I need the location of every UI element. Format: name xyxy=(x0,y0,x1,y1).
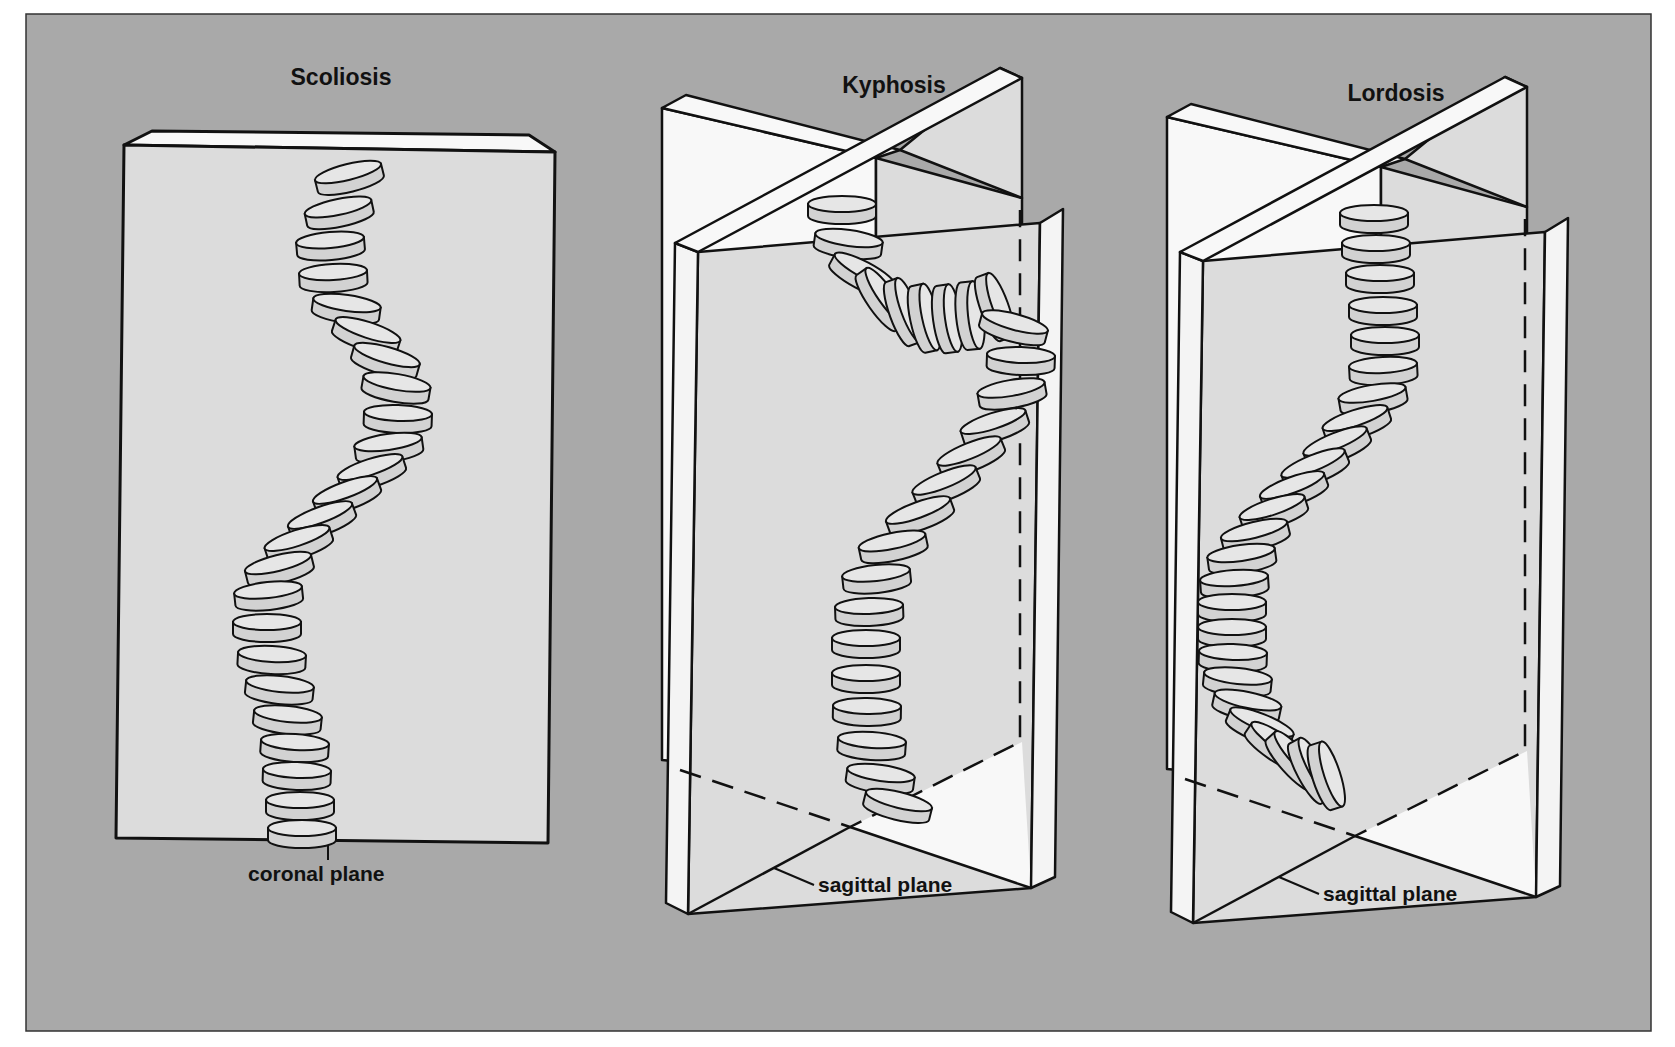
vertebra-disc xyxy=(299,262,368,294)
vertebra-disc xyxy=(1342,235,1410,263)
kyphosis-sagittal-plane-label: sagittal plane xyxy=(818,873,952,897)
vertebra-disc xyxy=(1340,205,1408,233)
vertebra-disc xyxy=(363,404,432,434)
vertebra-disc xyxy=(268,820,336,848)
coronal-plane-label: coronal plane xyxy=(248,862,385,886)
lordosis-sagittal-planes xyxy=(1167,77,1568,923)
vertebra-disc xyxy=(1349,297,1417,325)
vertebra-disc xyxy=(835,597,904,627)
vertebra-disc xyxy=(1349,355,1418,387)
vertebra-disc xyxy=(262,761,331,791)
kyphosis-title: Kyphosis xyxy=(842,72,946,99)
vertebra-disc xyxy=(808,196,876,224)
vertebra-disc xyxy=(832,630,900,658)
vertebra-disc xyxy=(833,697,901,726)
vertebra-disc xyxy=(986,346,1055,376)
vertebra-disc xyxy=(237,644,306,676)
vertebra-disc xyxy=(1198,594,1266,622)
vertebra-disc xyxy=(832,665,900,693)
vertebra-disc xyxy=(1351,327,1419,355)
spinal-deformity-diagram: Scoliosis Kyphosis Lordosis coronal plan… xyxy=(0,0,1675,1047)
lordosis-title: Lordosis xyxy=(1347,80,1444,107)
vertebra-disc xyxy=(266,792,334,820)
vertebra-disc xyxy=(1198,619,1266,647)
lordosis-sagittal-plane-label: sagittal plane xyxy=(1323,882,1457,906)
vertebra-disc xyxy=(233,614,301,642)
vertebra-disc xyxy=(1346,265,1414,293)
scoliosis-title: Scoliosis xyxy=(291,64,392,91)
